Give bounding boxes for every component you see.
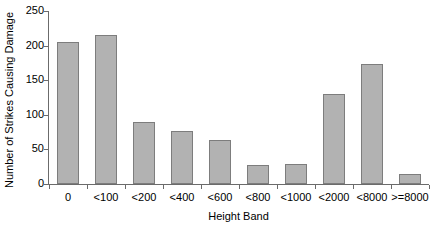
y-axis-tick-label: 50 [14, 143, 44, 154]
x-axis-tick-label: <800 [246, 191, 271, 204]
x-axis-title: Height Band [48, 210, 429, 223]
x-axis-tick-mark [353, 185, 354, 189]
bar [171, 131, 193, 184]
x-axis-tick-mark [315, 185, 316, 189]
bar-chart: Number of Strikes Causing Damage 0501001… [0, 0, 437, 233]
x-axis-tick-label: <1000 [281, 191, 312, 204]
x-axis-tick-label: <2000 [319, 191, 350, 204]
x-axis-tick-label: <600 [208, 191, 233, 204]
x-axis-tick-label: 0 [65, 191, 71, 204]
x-axis-tick-mark [163, 185, 164, 189]
x-axis-tick-labels: 0<100<200<400<600<800<1000<2000<8000>=80… [0, 191, 437, 205]
x-axis-tick-mark [87, 185, 88, 189]
y-axis-tick-label: 250 [14, 5, 44, 16]
x-axis-tick-label: <400 [170, 191, 195, 204]
x-axis-tick-label: <8000 [357, 191, 388, 204]
bar [247, 165, 269, 184]
y-axis-tick-label: 150 [14, 74, 44, 85]
x-axis-tick-label: >=8000 [391, 191, 428, 204]
bar [209, 140, 231, 184]
x-axis-tick-mark [49, 185, 50, 189]
x-axis-tick-label: <200 [132, 191, 157, 204]
x-axis-tick-mark [239, 185, 240, 189]
bar [361, 64, 383, 184]
bar [285, 164, 307, 184]
bar [323, 94, 345, 184]
bar [133, 122, 155, 184]
x-axis-tick-marks [0, 185, 437, 190]
x-axis-tick-mark [429, 185, 430, 189]
x-axis-tick-mark [201, 185, 202, 189]
x-axis-tick-mark [391, 185, 392, 189]
x-axis-tick-label: <100 [94, 191, 119, 204]
bar [399, 174, 421, 184]
bar [95, 35, 117, 184]
plot-area [49, 11, 429, 184]
bar [57, 42, 79, 184]
y-axis-tick-label: 200 [14, 40, 44, 51]
y-axis-tick-label: 100 [14, 109, 44, 120]
x-axis-tick-mark [277, 185, 278, 189]
x-axis-tick-mark [125, 185, 126, 189]
